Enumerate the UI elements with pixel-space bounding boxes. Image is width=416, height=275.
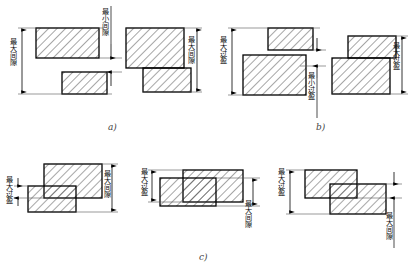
caption-a: a) (108, 122, 117, 132)
label-c-mid-max-interference: 最大过盈 (140, 168, 148, 196)
caption-c: c) (199, 252, 208, 262)
label-b-min-interference: 最小过盈 (307, 72, 315, 100)
label-a-min-clearance: 最小间隙 (101, 8, 109, 36)
label-c-left-max-clearance: 最大间隙 (103, 170, 111, 198)
label-b-right-max-interference: 最大过盈 (392, 42, 400, 70)
shaft-part (243, 55, 306, 95)
shaft-part (330, 184, 386, 214)
hole-part (126, 28, 184, 68)
shaft-part (143, 68, 191, 92)
label-b-left-max-interference: 最大过盈 (219, 36, 227, 64)
shaft-part (62, 72, 107, 94)
label-a-right-max-clearance: 最大间隙 (187, 36, 195, 64)
tolerance-fit-diagram (0, 0, 416, 275)
caption-b: b) (316, 122, 325, 132)
label-c-right-max-clearance: 最大间隙 (385, 212, 393, 240)
label-c-right-max-interference: 最大过盈 (277, 168, 285, 196)
hole-part (36, 28, 99, 58)
shaft-part (332, 58, 390, 94)
label-c-left-max-interference: 最大过盈 (5, 176, 13, 204)
shaft-part (28, 186, 76, 212)
hole-part (348, 36, 396, 58)
label-c-mid-max-clearance: 最大间隙 (244, 200, 252, 228)
hole-part (268, 28, 313, 50)
label-a-left-max-clearance: 最大间隙 (9, 38, 17, 66)
